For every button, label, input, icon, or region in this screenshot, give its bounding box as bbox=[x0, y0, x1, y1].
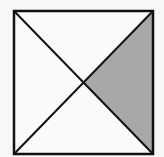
square-diagonals-diagram bbox=[0, 0, 164, 157]
